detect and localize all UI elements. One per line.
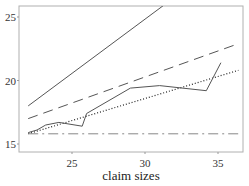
x-axis-label: claim sizes bbox=[102, 168, 159, 183]
y-tick-label: 20 bbox=[5, 75, 17, 87]
y-axis: 152025 bbox=[5, 11, 19, 150]
y-tick-label: 15 bbox=[5, 138, 17, 150]
x-tick-label: 25 bbox=[67, 157, 79, 169]
x-tick-label: 35 bbox=[213, 157, 225, 169]
chart: 152025 253035 claim sizes bbox=[0, 0, 249, 186]
x-axis: 253035 bbox=[67, 152, 225, 169]
y-tick-label: 25 bbox=[5, 11, 17, 23]
